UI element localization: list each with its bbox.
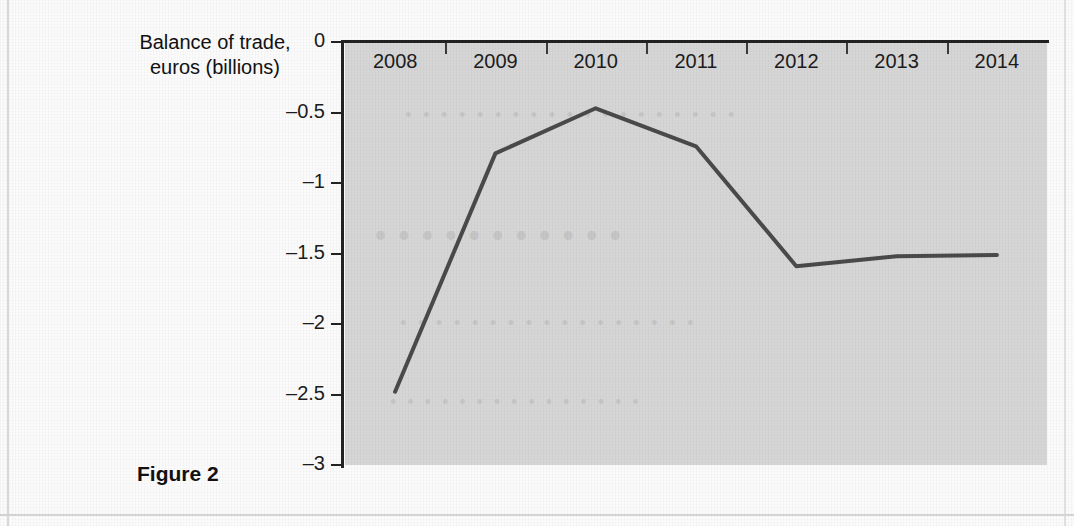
y-axis-tick [331, 182, 342, 184]
y-axis-tick [331, 253, 342, 255]
page-edge-rule-right [1064, 0, 1066, 526]
y-axis-tick [331, 394, 342, 396]
y-axis-tick [331, 112, 342, 114]
y-axis-tick-labels: 0–0.5–1–1.5–2–2.5–3 [135, 0, 325, 526]
y-axis-tick-label: –2.5 [135, 382, 325, 405]
y-axis-tick [331, 464, 342, 466]
figure-caption: Figure 2 [137, 462, 219, 486]
y-axis-tick-label: –2 [135, 311, 325, 334]
showthrough-text: • • • • • • • • • • • • • • • [390, 392, 642, 413]
showthrough-text: • • • • • • • • • • • • • • • • • • • [405, 104, 737, 126]
y-axis-tick-label: –1 [135, 170, 325, 193]
y-axis-tick-label: –0.5 [135, 100, 325, 123]
showthrough-text: • • • • • • • • • • • • • • • • • [400, 312, 697, 334]
showthrough-text: • • • • • • • • • • • [375, 218, 623, 254]
x-axis-tick-label: 2014 [937, 50, 1057, 73]
page-edge-rule-left [7, 0, 9, 526]
y-axis-tick-label: 0 [135, 29, 325, 52]
y-axis-tick [331, 323, 342, 325]
scanned-page: • • • • • • • • • • • • • • • • • • • • … [0, 0, 1074, 526]
y-axis-tick-label: –1.5 [135, 241, 325, 264]
chart-plot-area: • • • • • • • • • • • • • • • • • • • • … [345, 42, 1047, 465]
y-axis-tick [331, 41, 342, 43]
